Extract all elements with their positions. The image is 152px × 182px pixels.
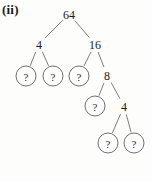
tree-edge [75,21,89,37]
figure-root: (ii) 64416???8?4?? [0,0,152,182]
tree-edge [111,83,119,98]
tree-edge [43,52,49,65]
node-label: 8 [104,69,110,83]
tree-node-value: 8 [104,69,110,83]
tree-node-unknown: ? [98,133,118,153]
node-label: ? [106,138,111,150]
tree-edge [84,52,91,66]
tree-edge [113,114,121,132]
tree-edge [45,20,62,37]
node-label: ? [132,138,137,150]
tree-edge [30,52,35,65]
node-label: ? [51,71,56,83]
tree-edge [98,52,104,66]
tree-node-unknown: ? [16,66,36,86]
tree-node-value: 64 [63,8,75,22]
node-label: ? [24,71,29,83]
factor-tree-diagram: 64416???8?4?? [0,0,152,182]
tree-node-value: 4 [121,100,127,114]
node-label: 16 [89,38,101,52]
tree-node-value: 16 [89,38,101,52]
node-layer: 64416???8?4?? [16,8,144,154]
tree-node-unknown: ? [85,96,105,116]
node-label: ? [93,101,98,113]
node-label: 64 [63,8,75,22]
tree-edge [99,83,104,95]
tree-node-value: 4 [36,38,42,52]
tree-edge [126,115,131,132]
node-label: ? [77,71,82,83]
node-label: 4 [36,38,42,52]
tree-node-unknown: ? [69,66,89,86]
tree-node-unknown: ? [124,133,144,153]
node-label: 4 [121,100,127,114]
tree-node-unknown: ? [43,66,63,86]
